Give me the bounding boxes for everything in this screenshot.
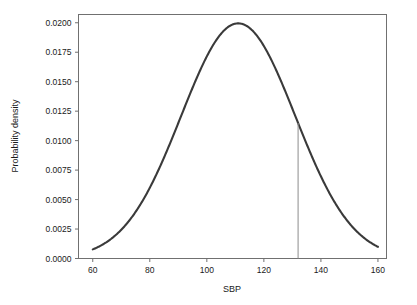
y-tick-label: 0.0125 (46, 106, 72, 116)
y-tick-label: 0.0075 (46, 165, 72, 175)
x-tick-label: 160 (371, 265, 385, 275)
x-tick-label: 100 (200, 265, 214, 275)
y-axis-tick-labels: 0.00000.00250.00500.00750.01000.01250.01… (46, 18, 72, 264)
x-tick-label: 120 (257, 265, 271, 275)
x-tick-label: 60 (88, 265, 98, 275)
probability-density-plot: 0.00000.00250.00500.00750.01000.01250.01… (0, 0, 417, 305)
y-axis-title: Probability density (10, 99, 20, 173)
y-tick-label: 0.0000 (46, 254, 72, 264)
x-tick-label: 140 (314, 265, 328, 275)
y-tick-label: 0.0025 (46, 224, 72, 234)
y-tick-label: 0.0100 (46, 136, 72, 146)
y-tick-label: 0.0200 (46, 18, 72, 28)
chart-container: 0.00000.00250.00500.00750.01000.01250.01… (0, 0, 417, 305)
x-axis-title: SBP (223, 284, 241, 294)
y-tick-label: 0.0175 (46, 47, 72, 57)
x-tick-label: 80 (145, 265, 155, 275)
y-tick-label: 0.0050 (46, 195, 72, 205)
y-tick-label: 0.0150 (46, 77, 72, 87)
